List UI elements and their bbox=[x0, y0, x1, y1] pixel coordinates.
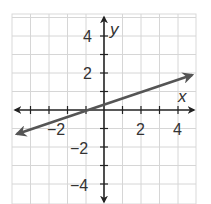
x-tick-label: 4 bbox=[173, 121, 182, 138]
y-axis-label: y bbox=[109, 20, 120, 39]
coordinate-plane: y x −2 2 4 4 2 −2 −4 bbox=[0, 0, 211, 204]
axes bbox=[15, 17, 194, 202]
y-tick-label: −2 bbox=[70, 140, 88, 157]
y-tick-label: −4 bbox=[70, 177, 88, 194]
x-axis-label: x bbox=[177, 87, 187, 106]
x-tick-label: 2 bbox=[136, 121, 145, 138]
y-tick-label: 2 bbox=[83, 65, 92, 82]
x-tick-label: −2 bbox=[47, 121, 65, 138]
y-tick-label: 4 bbox=[83, 28, 92, 45]
